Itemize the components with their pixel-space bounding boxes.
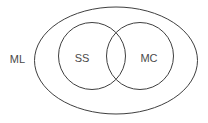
ml-label: ML [10,53,25,65]
ss-label: SS [75,52,90,64]
venn-diagram: ML SS MC [0,0,208,123]
mc-label: MC [140,52,157,64]
